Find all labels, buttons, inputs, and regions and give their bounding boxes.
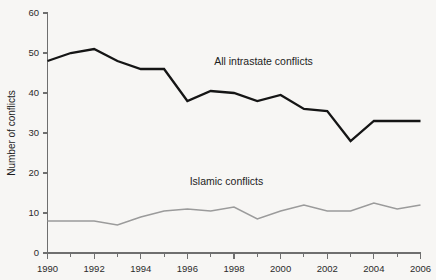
- y-tick-label: 10: [28, 207, 39, 218]
- x-tick-label: 1990: [37, 263, 58, 274]
- series-line-islamic-conflicts: [48, 203, 421, 225]
- y-tick-label: 40: [28, 87, 39, 98]
- y-tick-label: 60: [28, 7, 39, 18]
- x-tick-label: 2006: [410, 263, 431, 274]
- x-tick-label: 2000: [270, 263, 291, 274]
- chart-series-annotations: All intrastate conflictsIslamic conflict…: [190, 55, 313, 187]
- y-tick-label: 20: [28, 167, 39, 178]
- line-chart: 0102030405060 19901992199419961998200020…: [0, 0, 436, 280]
- y-tick-label: 50: [28, 47, 39, 58]
- x-axis-tick-labels: 199019921994199619982000200220042006: [37, 263, 431, 274]
- series-annotation-all-intrastate-conflicts: All intrastate conflicts: [214, 55, 313, 67]
- x-tick-label: 1994: [130, 263, 151, 274]
- x-tick-label: 1996: [177, 263, 198, 274]
- x-tick-label: 2004: [363, 263, 384, 274]
- y-axis-title-text: Number of conflicts: [6, 90, 17, 176]
- y-axis-title: Number of conflicts: [6, 90, 17, 176]
- chart-series-lines: [48, 49, 421, 225]
- x-tick-label: 1992: [84, 263, 105, 274]
- x-tick-label: 1998: [223, 263, 244, 274]
- chart-canvas: 0102030405060 19901992199419961998200020…: [0, 0, 436, 280]
- y-axis-tick-labels: 0102030405060: [28, 7, 39, 258]
- y-tick-label: 30: [28, 127, 39, 138]
- series-annotation-islamic-conflicts: Islamic conflicts: [190, 175, 264, 187]
- y-tick-label: 0: [34, 247, 39, 258]
- chart-axes: [48, 13, 421, 253]
- x-tick-label: 2002: [317, 263, 338, 274]
